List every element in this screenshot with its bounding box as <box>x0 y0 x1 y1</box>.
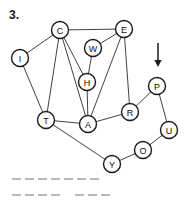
answer-blank-dash[interactable] <box>64 178 73 180</box>
node-label-a: A <box>85 120 91 130</box>
graph-node-p[interactable]: P <box>149 78 166 95</box>
answer-blank-dash[interactable] <box>12 178 21 180</box>
answer-blank-dash[interactable] <box>38 194 47 196</box>
node-label-t: T <box>43 116 49 126</box>
graph-edge-o-y <box>120 153 136 160</box>
answer-blank-dash[interactable] <box>25 178 34 180</box>
graph-edge-c-t <box>47 38 58 111</box>
answer-blank-dash[interactable] <box>12 194 21 196</box>
node-label-u: U <box>166 126 173 136</box>
graph-edge-p-u <box>159 94 167 122</box>
graph-edge-c-e <box>68 29 115 30</box>
graph-pointer-group <box>154 43 161 67</box>
answer-blank-dash[interactable] <box>88 194 97 196</box>
graph-edge-a-r <box>96 114 122 121</box>
answer-blank-dash[interactable] <box>51 178 60 180</box>
down-arrow-head <box>154 60 161 67</box>
answer-blank-dash[interactable] <box>51 194 60 196</box>
dash-group <box>12 194 114 196</box>
graph-edge-w-h <box>88 56 91 73</box>
graph-node-i[interactable]: I <box>12 50 29 67</box>
graph-node-e[interactable]: E <box>116 21 133 38</box>
dash-spacer <box>64 194 75 196</box>
answer-blank-dash[interactable] <box>38 178 47 180</box>
node-label-c: C <box>57 26 64 36</box>
answer-blank-lines <box>0 178 188 210</box>
graph-node-h[interactable]: H <box>79 74 96 91</box>
graph-node-w[interactable]: W <box>85 40 102 57</box>
graph-node-y[interactable]: Y <box>104 156 121 173</box>
answer-blank-dash[interactable] <box>90 178 99 180</box>
graph-edge-e-r <box>125 37 130 103</box>
node-label-r: R <box>127 108 134 118</box>
graph-edge-c-i <box>27 35 53 53</box>
graph-edge-t-y <box>53 125 105 160</box>
node-label-e: E <box>121 25 127 35</box>
graph-node-t[interactable]: T <box>38 112 55 129</box>
answer-blank-dash[interactable] <box>77 178 86 180</box>
graph-edge-h-a <box>87 90 88 115</box>
graph-edge-u-o <box>150 135 163 145</box>
graph-node-u[interactable]: U <box>161 122 178 139</box>
node-label-o: O <box>139 146 146 156</box>
answer-blank-dash[interactable] <box>25 194 34 196</box>
graph-node-a[interactable]: A <box>80 116 97 133</box>
graph-node-c[interactable]: C <box>52 22 69 39</box>
graph-edge-w-e <box>100 33 117 43</box>
answer-blank-dash[interactable] <box>75 194 84 196</box>
node-label-i: I <box>19 54 22 64</box>
node-label-p: P <box>154 82 160 92</box>
node-label-y: Y <box>109 160 115 170</box>
node-label-w: W <box>89 44 98 54</box>
answer-line-row[interactable] <box>0 178 188 194</box>
node-label-h: H <box>84 78 91 88</box>
graph-edge-i-t <box>23 66 42 112</box>
graph-node-r[interactable]: R <box>122 104 139 121</box>
graph-node-o[interactable]: O <box>135 142 152 159</box>
answer-line-row[interactable] <box>0 194 188 210</box>
graph-edge-t-a <box>54 121 79 123</box>
graph-edge-c-h <box>64 38 83 75</box>
answer-blank-dash[interactable] <box>101 194 110 196</box>
graph-edge-r-p <box>136 92 151 106</box>
dash-group <box>12 178 103 180</box>
worksheet-problem-panel: 3. CEWIHPRTAUOY <box>0 0 188 217</box>
